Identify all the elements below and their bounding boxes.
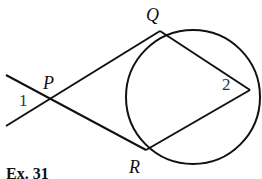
secant-line-pq (6, 31, 160, 126)
figure-caption: Ex. 31 (6, 166, 49, 179)
chord-qv (160, 31, 250, 90)
point-label-r: R (129, 158, 140, 176)
angle-label-2: 2 (222, 76, 231, 93)
point-label-p: P (43, 74, 54, 92)
circle (126, 30, 260, 164)
chord-rv (146, 90, 250, 150)
angle-label-1: 1 (19, 92, 28, 109)
point-label-q: Q (146, 6, 159, 24)
